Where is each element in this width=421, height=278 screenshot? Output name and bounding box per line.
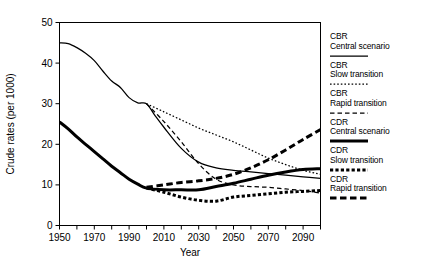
y-tick-label: 30 <box>41 98 53 109</box>
x-tick-label: 2030 <box>188 232 211 243</box>
legend-entry: CDRRapid transition <box>330 175 420 201</box>
legend-swatch <box>330 138 368 143</box>
y-tick-label: 50 <box>41 17 53 28</box>
y-tick-label: 0 <box>47 220 53 231</box>
y-tick-label: 40 <box>41 58 53 69</box>
legend-entry-subtitle: Central scenario <box>330 127 420 137</box>
chart-legend: CBRCentral scenarioCBRSlow transitionCBR… <box>330 32 420 203</box>
legend-swatch <box>330 53 368 58</box>
x-tick-label: 1970 <box>83 232 106 243</box>
legend-swatch <box>330 195 368 200</box>
y-tick-label: 10 <box>41 179 53 190</box>
x-tick-label: 2090 <box>292 232 315 243</box>
x-tick-label: 2070 <box>257 232 280 243</box>
legend-entry: CDRCentral scenario <box>330 118 420 144</box>
legend-entry-subtitle: Slow transition <box>330 70 420 80</box>
x-tick-label: 2010 <box>153 232 176 243</box>
x-tick-label: 1950 <box>48 232 71 243</box>
series-line <box>147 104 321 193</box>
legend-swatch <box>330 81 368 86</box>
legend-entry: CDRSlow transition <box>330 146 420 172</box>
x-axis-title: Year <box>180 247 201 258</box>
legend-entry-subtitle: Slow transition <box>330 156 420 166</box>
x-tick-label: 1990 <box>118 232 141 243</box>
y-axis-title: Crude rates (per 1000) <box>5 73 16 174</box>
legend-entry: CBRCentral scenario <box>330 32 420 58</box>
legend-swatch <box>330 167 368 172</box>
legend-entry-subtitle: Rapid transition <box>330 184 420 194</box>
legend-swatch <box>330 110 368 115</box>
legend-entry-subtitle: Central scenario <box>330 42 420 52</box>
legend-entry: CBRSlow transition <box>330 61 420 87</box>
series-line <box>60 43 321 179</box>
crude-rates-figure: 0102030405019501970199020102030205020702… <box>0 0 421 278</box>
x-tick-label: 2050 <box>222 232 245 243</box>
legend-entry-subtitle: Rapid transition <box>330 99 420 109</box>
legend-entry: CBRRapid transition <box>330 89 420 115</box>
y-tick-label: 20 <box>41 139 53 150</box>
